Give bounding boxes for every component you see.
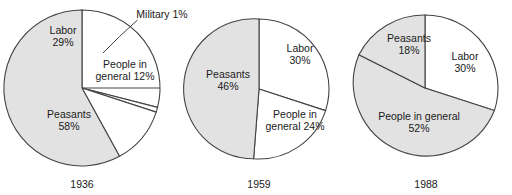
- pie-chart-figure: Labor 29% Military 1% People in general …: [0, 0, 512, 195]
- pie-1936-graphic: [0, 0, 512, 195]
- pie-1959-slice-peasants: [184, 19, 259, 159]
